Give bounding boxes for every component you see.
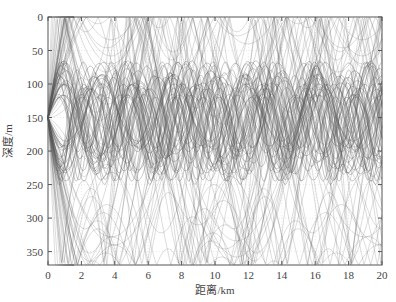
x-tick-label: 6 xyxy=(145,269,151,281)
x-tick-label: 2 xyxy=(79,269,85,281)
x-axis-title: 距离/km xyxy=(195,283,235,296)
x-tick-label: 4 xyxy=(112,269,118,281)
x-tick-label: 10 xyxy=(210,269,222,281)
y-axis-title: 深度/m xyxy=(1,124,14,158)
ray-trace-chart: 02468101214161820 050100150200250300350 … xyxy=(0,0,396,302)
y-tick-label: 350 xyxy=(27,246,44,258)
y-tick-label: 150 xyxy=(27,112,44,124)
y-tick-label: 200 xyxy=(27,145,44,157)
x-tick-label: 14 xyxy=(276,269,288,281)
y-tick-label: 300 xyxy=(27,212,44,224)
y-tick-label: 250 xyxy=(27,179,44,191)
y-tick-label: 0 xyxy=(38,11,44,23)
x-tick-label: 20 xyxy=(377,269,389,281)
x-tick-label: 16 xyxy=(310,269,322,281)
x-tick-label: 12 xyxy=(243,269,254,281)
x-tick-label: 8 xyxy=(179,269,185,281)
y-tick-label: 100 xyxy=(27,78,44,90)
x-tick-label: 18 xyxy=(343,269,355,281)
x-tick-label: 0 xyxy=(45,269,51,281)
y-tick-label: 50 xyxy=(32,45,44,57)
